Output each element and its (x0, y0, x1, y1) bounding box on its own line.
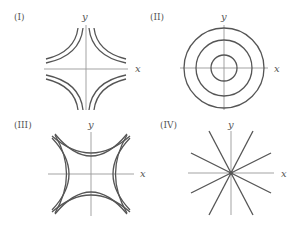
panel-ii-label: (II) (150, 12, 164, 22)
panel-ii: (II) y x (150, 11, 280, 110)
panel-i-curve (46, 79, 78, 110)
panel-i-y-label: y (81, 11, 88, 22)
panel-iii-y-label: y (87, 119, 94, 130)
panel-iv-origin-dot (229, 171, 233, 175)
panel-iv-label: (IV) (160, 120, 177, 130)
panel-i-curve (46, 28, 78, 59)
panel-i-curve (94, 79, 126, 110)
panel-i-x-label: x (135, 63, 141, 74)
panel-iii: (III) y x (14, 119, 146, 216)
panel-i: (I) y x (14, 11, 141, 110)
panel-iv-x-label: x (281, 168, 287, 179)
panel-iv-y-label: y (227, 119, 234, 130)
panel-i-label: (I) (14, 12, 25, 22)
figure-canvas: (I) y x (II) y x (III) y x (0, 0, 293, 228)
panel-iii-label: (III) (14, 120, 32, 130)
panel-i-curve (94, 28, 126, 59)
panel-ii-y-label: y (220, 11, 227, 22)
panel-ii-x-label: x (274, 63, 280, 74)
panel-iii-x-label: x (140, 168, 146, 179)
panel-iv: (IV) y x (160, 119, 287, 215)
